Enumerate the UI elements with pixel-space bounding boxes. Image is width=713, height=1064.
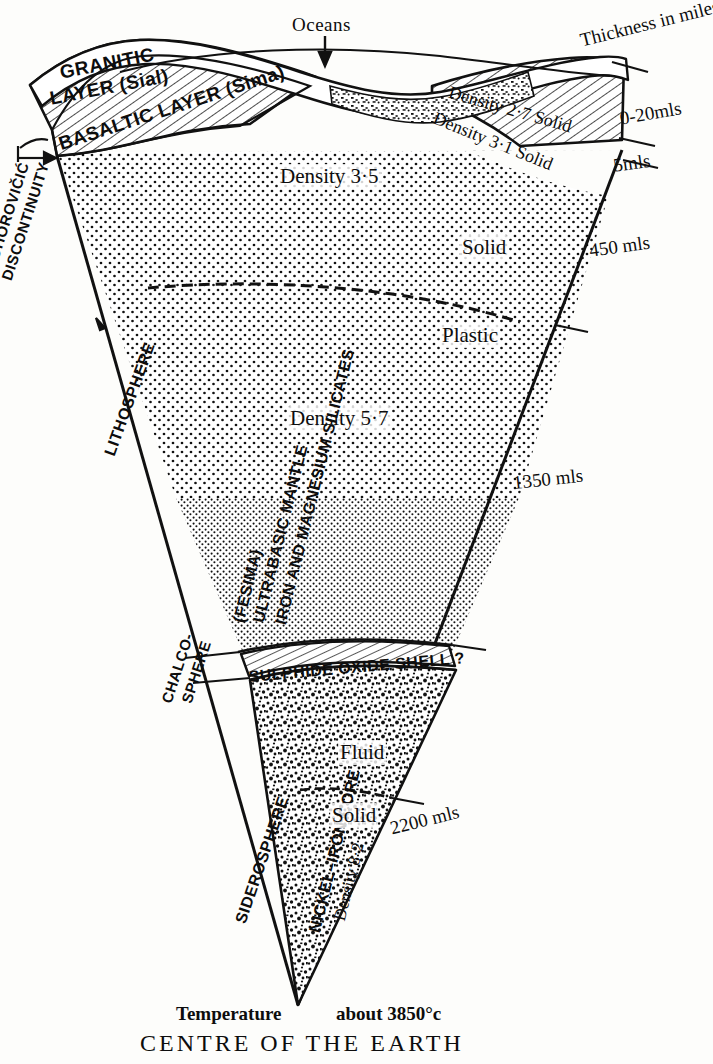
mantle-upper-region	[57, 150, 622, 498]
oceans-label: Oceans	[292, 14, 351, 36]
core-state-solid-label: Solid	[330, 803, 378, 828]
temperature-label: Temperature	[176, 1003, 282, 1025]
mantle-state-solid-label: Solid	[460, 235, 508, 260]
mantle-upper-density-label: Density 3·5	[278, 164, 381, 189]
nickel-iron-core	[250, 666, 456, 1005]
mantle-lower-region	[176, 498, 519, 662]
figure-title-bottom: CENTRE OF THE EARTH	[140, 1030, 464, 1057]
temperature-value: about 3850°c	[336, 1003, 441, 1025]
earth-cross-section-figure: Oceans Thickness in miles GRANITIC LAYER…	[0, 0, 713, 1064]
core-state-fluid-label: Fluid	[338, 740, 386, 765]
mantle-state-plastic-label: Plastic	[440, 323, 500, 348]
oceans-arrow	[319, 36, 331, 66]
earth-wedge-drawing	[0, 0, 713, 1064]
